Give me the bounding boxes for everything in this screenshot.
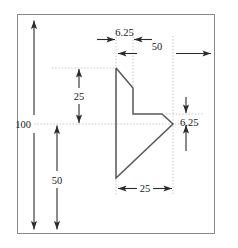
dimension-label-mid-25: 25 xyxy=(74,91,85,102)
drawing-canvas: 6.25 50 100 25 50 6.25 25 xyxy=(0,0,238,248)
dimension-bottom-25: 25 xyxy=(118,183,172,194)
dimension-label-top-50: 50 xyxy=(152,41,163,52)
dimension-left-100: 100 xyxy=(15,21,34,230)
dimension-label-top-6-25: 6.25 xyxy=(115,27,133,38)
dimension-top-50: 50 xyxy=(118,41,211,54)
dimension-label-left-50: 50 xyxy=(52,175,63,186)
dimension-drawing-svg: 6.25 50 100 25 50 6.25 25 xyxy=(0,0,238,248)
dimension-label-left-100: 100 xyxy=(15,119,31,130)
extension-lines xyxy=(34,30,203,196)
dimension-mid-25: 25 xyxy=(74,69,85,123)
dimension-label-right-6-25: 6.25 xyxy=(180,117,198,128)
dimension-top-6-25: 6.25 xyxy=(97,27,152,40)
dimension-right-6-25: 6.25 xyxy=(180,97,198,151)
dimension-label-bottom-25: 25 xyxy=(140,183,151,194)
dimension-left-50: 50 xyxy=(52,126,63,230)
part-profile xyxy=(116,68,173,178)
